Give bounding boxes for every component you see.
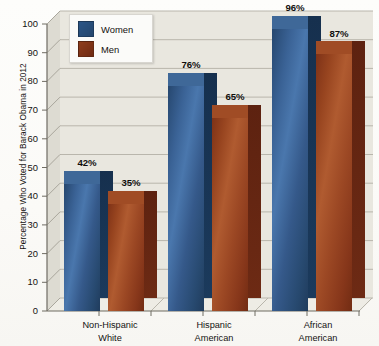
- y-tick-label-80: 80: [12, 75, 38, 86]
- bar-front-face: [272, 29, 308, 312]
- x-category-label-non-hispanic-white: Non-Hispanic White: [55, 319, 165, 344]
- bar-side-face: [352, 41, 365, 298]
- bar-side-face: [144, 191, 157, 298]
- bar-men-hispanic-american: [212, 0, 261, 311]
- y-tick-label-30: 30: [12, 219, 38, 230]
- bar-men-african-american: [316, 0, 365, 311]
- x-category-label-line1: Non-Hispanic: [55, 319, 165, 332]
- x-category-label-line2: American: [159, 332, 269, 345]
- bar-value-women-african-american: 96%: [267, 2, 323, 13]
- chart-legend: Women Men: [69, 14, 153, 63]
- x-tick-marks: [99, 311, 359, 316]
- y-tick-label-20: 20: [12, 248, 38, 259]
- bar-side-face: [248, 105, 261, 298]
- bar-front-face: [212, 118, 248, 311]
- bar-front-face: [108, 204, 144, 311]
- bar-value-women-hispanic-american: 76%: [163, 59, 219, 70]
- bar-chart: Percentage Who Voted for Barack Obama in…: [0, 0, 379, 346]
- y-tick-label-100: 100: [12, 18, 38, 29]
- y-tick-label-40: 40: [12, 190, 38, 201]
- y-tick-marks: [42, 24, 47, 311]
- x-category-label-line1: Hispanic: [159, 319, 269, 332]
- legend-swatch-women-icon: [78, 21, 94, 37]
- y-tick-label-60: 60: [12, 133, 38, 144]
- bar-value-men-non-hispanic-white: 35%: [103, 177, 159, 188]
- bar-value-women-non-hispanic-white: 42%: [59, 157, 115, 168]
- bar-women-african-american: [272, 0, 321, 311]
- legend-item-women[interactable]: Women: [78, 21, 133, 37]
- bar-value-men-african-american: 87%: [311, 28, 367, 39]
- y-tick-label-70: 70: [12, 104, 38, 115]
- x-category-label-line2: White: [55, 332, 165, 345]
- y-tick-label-0: 0: [12, 305, 38, 316]
- bar-front-face: [64, 184, 100, 312]
- x-category-label-line1: African: [263, 319, 373, 332]
- x-category-label-hispanic-american: Hispanic American: [159, 319, 269, 344]
- plot-area: 100 90 80 70 60 50 40 30 20 10 0 42% 35%: [0, 0, 379, 346]
- y-tick-label-50: 50: [12, 162, 38, 173]
- bar-front-face: [168, 86, 204, 311]
- legend-swatch-men-icon: [78, 41, 94, 57]
- x-category-label-line2: American: [263, 332, 373, 345]
- x-category-label-african-american: African American: [263, 319, 373, 344]
- legend-label-women: Women: [101, 24, 133, 35]
- legend-label-men: Men: [101, 44, 119, 55]
- y-tick-label-90: 90: [12, 47, 38, 58]
- y-tick-label-10: 10: [12, 276, 38, 287]
- bar-front-face: [316, 54, 352, 311]
- bar-value-men-hispanic-american: 65%: [207, 91, 263, 102]
- bar-women-hispanic-american: [168, 0, 217, 311]
- legend-item-men[interactable]: Men: [78, 41, 119, 57]
